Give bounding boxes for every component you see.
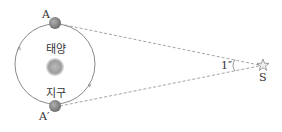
earth-at-a-icon (49, 17, 61, 29)
sun-icon (46, 58, 64, 76)
label-star: S (259, 72, 267, 83)
label-position-a-prime: A′ (39, 111, 49, 122)
label-sun: 태양 (46, 44, 66, 55)
label-position-a: A (42, 9, 50, 20)
parallax-diagram: A A′ 태양 지구 1″ S (0, 0, 282, 132)
parallax-angle-arc (233, 60, 235, 72)
earth-at-a-prime-icon (49, 100, 61, 112)
label-parallax-angle: 1″ (221, 60, 232, 71)
star-icon (257, 59, 269, 70)
label-earth: 지구 (46, 88, 66, 99)
